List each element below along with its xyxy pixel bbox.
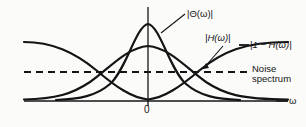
- noise-spectrum-label-line2: spectrum: [252, 74, 291, 84]
- h-magnitude-label: |H(ω)|: [205, 33, 231, 43]
- theta-magnitude-label: |Θ(ω)|: [187, 9, 213, 19]
- x-axis-label: ω: [289, 96, 296, 106]
- origin-label: 0: [144, 105, 150, 116]
- theta-leader-line: [161, 14, 185, 33]
- signal-spectra-figure: |Θ(ω)| |H(ω)| |1 − H(ω)| Noise spectrum …: [0, 0, 306, 127]
- curve-one-minus-h: [24, 42, 288, 100]
- one-minus-h-magnitude-label: |1 − H(ω)|: [250, 40, 292, 50]
- noise-spectrum-label: Noise spectrum: [252, 64, 291, 84]
